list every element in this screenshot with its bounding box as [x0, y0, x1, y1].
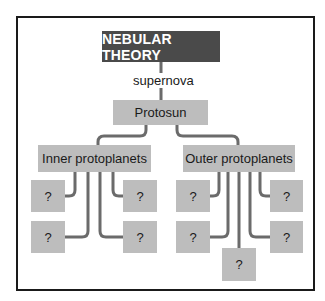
unknown-label: ? [44, 189, 51, 204]
nebular-theory-node: NEBULAR THEORY [102, 31, 220, 62]
inner-protoplanets-label: Inner protoplanets [42, 151, 147, 166]
unknown-label: ? [136, 230, 143, 245]
unknown-label: ? [44, 230, 51, 245]
unknown-label: ? [283, 230, 290, 245]
unknown-label: ? [136, 189, 143, 204]
outer-planet-node-2: ? [176, 221, 210, 253]
inner-planet-node-3: ? [123, 180, 157, 212]
unknown-label: ? [283, 189, 290, 204]
inner-planet-node-2: ? [31, 221, 65, 253]
outer-protoplanets-node: Outer protoplanets [183, 145, 295, 172]
inner-planet-node-4: ? [123, 221, 157, 253]
nebular-theory-label: NEBULAR THEORY [102, 31, 220, 63]
unknown-label: ? [235, 257, 242, 272]
inner-planet-node-1: ? [31, 180, 65, 212]
protosun-node: Protosun [113, 100, 208, 125]
outer-protoplanets-label: Outer protoplanets [185, 151, 293, 166]
outer-planet-node-3: ? [222, 248, 256, 281]
outer-planet-node-5: ? [270, 221, 303, 253]
outer-planet-node-1: ? [176, 180, 210, 212]
supernova-label: supernova [131, 73, 196, 88]
unknown-label: ? [189, 189, 196, 204]
inner-protoplanets-node: Inner protoplanets [38, 145, 151, 172]
protosun-label: Protosun [134, 105, 186, 120]
unknown-label: ? [189, 230, 196, 245]
outer-planet-node-4: ? [270, 180, 303, 212]
